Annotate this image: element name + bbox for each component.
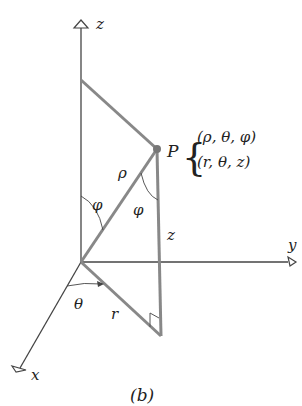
point-p	[153, 145, 161, 153]
point-p-label: P	[166, 141, 179, 161]
top-edge	[81, 80, 157, 149]
r-segment	[81, 262, 161, 336]
x-axis-arrow-icon	[12, 366, 26, 372]
theta-arc	[67, 283, 102, 286]
r-label: r	[111, 305, 119, 323]
z-segment-label: z	[166, 226, 175, 244]
spherical-cylindrical-diagram: z y x P { (ρ, θ, φ) (r, θ, z) ρ φ φ z θ …	[0, 0, 302, 406]
cylindrical-coords: (r, θ, z)	[197, 153, 250, 171]
phi-origin-label: φ	[92, 196, 103, 214]
phi-p-label: φ	[133, 201, 144, 219]
phi-arc-p	[141, 173, 158, 200]
y-axis-label: y	[287, 236, 297, 254]
figure-caption: (b)	[130, 385, 154, 405]
right-angle-marker	[150, 313, 159, 327]
spherical-coords: (ρ, θ, φ)	[197, 128, 256, 146]
y-axis-arrow-icon	[288, 257, 296, 266]
x-axis-label: x	[31, 366, 40, 384]
rho-label: ρ	[117, 164, 127, 182]
theta-label: θ	[74, 295, 83, 313]
z-segment	[157, 149, 161, 336]
z-axis-arrow-icon	[74, 20, 88, 28]
x-axis	[20, 262, 81, 368]
z-axis-label: z	[95, 15, 104, 33]
